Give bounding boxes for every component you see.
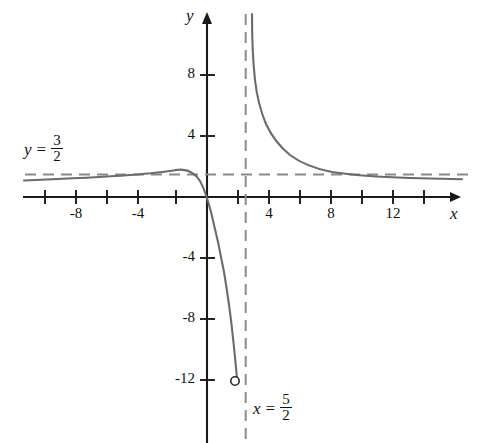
horizontal-asymptote-numerator: 3 (51, 133, 63, 149)
y-tick-label-neg12: -12 (140, 370, 195, 387)
y-tick-label-4: 4 (155, 126, 195, 143)
y-axis (202, 12, 212, 443)
x-axis (23, 192, 461, 202)
horizontal-asymptote-equals: = (37, 140, 47, 160)
vertical-asymptote-variable: x (253, 399, 261, 419)
x-axis-label: x (450, 204, 458, 224)
vertical-asymptote-numerator: 5 (280, 392, 292, 408)
vertical-asymptote-equals: = (266, 399, 276, 419)
horizontal-asymptote-denominator: 2 (51, 149, 63, 164)
horizontal-asymptote-variable: y (24, 140, 32, 160)
y-tick-label-8: 8 (155, 65, 195, 82)
x-tick-label-4: 4 (249, 205, 289, 222)
horizontal-asymptote-label: y = 3 2 (24, 134, 63, 166)
x-tick-label-8: 8 (311, 205, 351, 222)
hole-open-circle (231, 377, 239, 385)
x-tick-label-12: 12 (373, 205, 413, 222)
curve-right-branch (252, 14, 462, 179)
x-tick-label-neg4: -4 (118, 205, 158, 222)
y-axis-label: y (186, 6, 194, 26)
rational-function-figure: x y -8 -4 4 8 12 8 4 -4 -8 -12 y = 3 2 x… (0, 0, 482, 443)
y-tick-label-neg4: -4 (148, 248, 195, 265)
horizontal-asymptote-fraction: 3 2 (51, 133, 63, 165)
x-tick-label-neg8: -8 (56, 205, 96, 222)
vertical-asymptote-denominator: 2 (280, 408, 292, 423)
curve-left-branch (24, 170, 237, 378)
vertical-asymptote-label: x = 5 2 (253, 393, 292, 425)
vertical-asymptote-fraction: 5 2 (280, 392, 292, 424)
y-tick-label-neg8: -8 (148, 309, 195, 326)
